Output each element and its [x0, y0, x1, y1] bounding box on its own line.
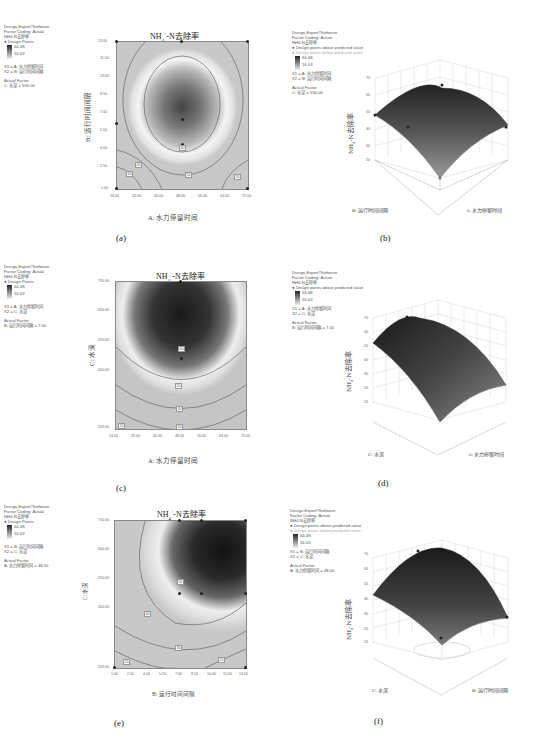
- contour-plot-c: 60 50 40 30 20: [115, 281, 247, 430]
- design-point: [200, 519, 203, 522]
- contour-label: 40: [135, 162, 142, 168]
- z-tick: 30: [364, 612, 368, 616]
- x-tick: 8.50: [191, 672, 198, 676]
- contour-label: 20: [118, 423, 125, 429]
- contour-plot-e: 50 40 30 20 20: [114, 520, 247, 669]
- design-point: [113, 666, 116, 669]
- design-point: [244, 666, 247, 669]
- legend-e: Design-Expert?Software Factor Coding: Ac…: [4, 504, 104, 568]
- y-tick: 2.50: [100, 164, 107, 168]
- x-tick: 24.00: [110, 194, 119, 198]
- y-tick: 750.00: [98, 279, 109, 283]
- y-tick: 550.00: [98, 338, 109, 342]
- x-tick: 48.00: [176, 194, 185, 198]
- z-tick: 50: [366, 110, 370, 114]
- y-axis-label: C: 水深: [86, 344, 96, 366]
- panel-a: Design-Expert?Software Factor Coding: Ac…: [0, 0, 270, 245]
- x-axis-label: A: 水力停留时间: [466, 206, 502, 213]
- panel-c: Design-Expert?Software Factor Coding: Ac…: [0, 250, 270, 495]
- caption-a: (a): [116, 233, 126, 243]
- design-point: [178, 592, 181, 595]
- legend-actual-value: C: 水深 = 550.00: [4, 83, 104, 88]
- x-tick: 72.00: [242, 194, 251, 198]
- legend-actual-value: A: 水力停留时间 = 48.00: [4, 563, 104, 568]
- legend-c: Design-Expert?Software Factor Coding: Ac…: [4, 264, 104, 328]
- design-point: [180, 40, 183, 43]
- z-tick: 60: [366, 93, 370, 97]
- z-tick: 50: [364, 344, 368, 348]
- z-tick: 50: [364, 582, 368, 586]
- legend-actual-value: B: 运行时间间隔 = 7.00: [4, 323, 104, 328]
- y-tick: 10.00: [100, 74, 109, 78]
- colorbar: [7, 525, 12, 539]
- design-point: [200, 592, 203, 595]
- contour-label: 40: [144, 611, 151, 617]
- design-point: [246, 187, 249, 190]
- x-tick: 5.50: [159, 672, 166, 676]
- contour-label: 40: [176, 406, 183, 412]
- z-tick: 20: [366, 158, 370, 162]
- x-tick: 7.00: [175, 672, 182, 676]
- caption-e: (e): [114, 718, 124, 728]
- contour-label: 50: [175, 383, 182, 389]
- x-tick: 48.00: [175, 434, 184, 438]
- design-point: [244, 592, 247, 595]
- design-point: [115, 187, 118, 190]
- x-tick: 32.00: [132, 194, 141, 198]
- x-tick: 64.00: [219, 434, 228, 438]
- z-tick: 60: [364, 567, 368, 571]
- y-axis-label: B: 运行时间间隔: [352, 206, 388, 213]
- y-tick: 13.00: [98, 39, 107, 43]
- x-axis-label: A: 水力停留时间: [468, 450, 504, 457]
- y-tick: 350.00: [98, 425, 109, 429]
- z-tick: 40: [366, 127, 370, 131]
- y-tick: 450.00: [98, 605, 109, 609]
- panel-b: Design-Expert?Software Factor Coding: Ac…: [270, 0, 540, 245]
- contour-label: 20: [123, 659, 130, 665]
- panel-f: Design-Expert?Software Factor Coding: Ac…: [270, 490, 540, 735]
- z-tick: 40: [364, 358, 368, 362]
- y-tick: 4.00: [100, 146, 107, 150]
- contour-label: 20: [234, 174, 241, 180]
- design-point: [244, 519, 247, 522]
- y-tick: 1.00: [101, 186, 108, 190]
- z-tick: 40: [364, 597, 368, 601]
- y-tick: 650.00: [98, 308, 109, 312]
- z-tick: 70: [364, 316, 368, 320]
- x-tick: 11.50: [223, 672, 232, 676]
- z-tick: 70: [364, 552, 368, 556]
- y-tick: 450.00: [98, 368, 109, 372]
- z-axis-label: NH4-N去除率: [343, 599, 354, 640]
- y-axis-label: C: 水深: [372, 686, 388, 693]
- z-tick: 10: [364, 640, 368, 644]
- y-tick: 650.00: [98, 547, 109, 551]
- contour-label: 20: [218, 657, 225, 663]
- contour-label: 30: [126, 171, 133, 177]
- x-axis-label: A: 水力停留时间: [148, 212, 198, 222]
- y-tick: 350.00: [98, 665, 109, 669]
- y-axis-label: C: 水深: [368, 450, 384, 457]
- x-tick: 13.00: [239, 672, 248, 676]
- design-point: [115, 122, 118, 125]
- z-tick: 70: [366, 76, 370, 80]
- z-tick: 20: [364, 627, 368, 631]
- contour-label: 30: [175, 645, 182, 651]
- x-tick: 72.00: [241, 434, 250, 438]
- legend-a: Design-Expert?Software Factor Coding: Ac…: [4, 24, 104, 88]
- colorbar: [7, 45, 12, 59]
- contour-label: 50: [177, 579, 184, 585]
- x-tick: 56.00: [198, 194, 207, 198]
- chart-title: NH4+-N去除率: [157, 508, 206, 521]
- design-point: [115, 40, 118, 43]
- panel-d: Design-Expert?Software Factor Coding: Ac…: [270, 250, 540, 495]
- contour-label: 60: [178, 346, 185, 352]
- design-point: [246, 40, 249, 43]
- y-tick: 7.00: [100, 110, 107, 114]
- x-tick: 32.00: [131, 434, 140, 438]
- contour-label: 60: [179, 145, 186, 151]
- y-axis-label: B: 运行时间间隔: [82, 92, 92, 142]
- surface-plot-d: [270, 250, 540, 495]
- x-tick: 4.00: [143, 672, 150, 676]
- colorbar: [7, 285, 12, 299]
- x-tick: 2.50: [127, 672, 134, 676]
